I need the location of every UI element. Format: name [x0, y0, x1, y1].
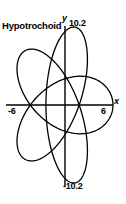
chart-title: Hypotrochoid — [2, 21, 61, 31]
x-axis-max-tick-label: 6 — [101, 107, 106, 116]
x-axis-label: x — [114, 97, 119, 106]
axes-group — [6, 26, 113, 186]
y-axis-label: y — [62, 14, 67, 23]
hypotrochoid-figure: Hypotrochoid y 10.2 -10.2 x -6 6 — [0, 0, 126, 204]
x-axis-min-tick-label: -6 — [8, 107, 16, 116]
y-axis-min-tick-label: -10.2 — [63, 182, 83, 191]
y-axis-max-tick-label: 10.2 — [69, 19, 86, 28]
